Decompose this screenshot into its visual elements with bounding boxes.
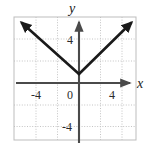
x-tick-label-negative-4: -4 xyxy=(31,88,41,102)
origin-label: 0 xyxy=(67,88,73,102)
graph-figure: y x -4 0 4 4 -4 xyxy=(0,0,150,149)
x-tick-label-positive-4: 4 xyxy=(109,88,115,102)
x-axis-label: x xyxy=(136,76,144,91)
y-tick-label-negative-4: -4 xyxy=(62,120,72,134)
y-tick-label-positive-4: 4 xyxy=(67,33,73,47)
y-axis-label: y xyxy=(67,1,76,16)
coordinate-plane-svg: y x -4 0 4 4 -4 xyxy=(0,0,150,149)
